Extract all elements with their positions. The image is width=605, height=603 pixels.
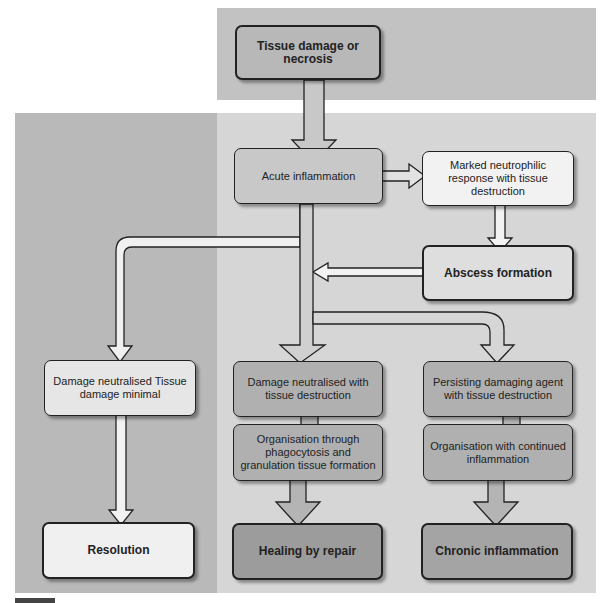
node-damage-destruction: Damage neutralised with tissue destructi…	[233, 361, 383, 417]
node-healing-by-repair: Healing by repair	[232, 523, 383, 580]
node-organisation-continued: Organisation with continued inflammation	[423, 424, 573, 481]
arrow-acute-to-destruction	[280, 204, 325, 363]
arrow-minimal-to-resolution	[109, 415, 133, 525]
arrow-acute-to-minimal	[108, 204, 300, 362]
node-chronic-inflammation: Chronic inflammation	[421, 523, 573, 580]
arrow-acute-to-neutrophilic	[382, 164, 425, 188]
arrow-abscess-to-acute	[313, 263, 423, 281]
node-resolution: Resolution	[42, 522, 195, 579]
arrow-continued-to-chronic	[474, 480, 518, 526]
node-acute-inflammation: Acute inflammation	[234, 148, 383, 204]
node-tissue-damage: Tissue damage or necrosis	[235, 25, 381, 80]
node-persisting-agent: Persisting damaging agent with tissue de…	[423, 361, 573, 417]
node-organisation-phagocytosis: Organisation through phagocytosis and gr…	[233, 424, 383, 481]
arrow-organisation-to-healing	[276, 480, 320, 526]
node-abscess-formation: Abscess formation	[422, 245, 574, 301]
flow-arrows	[0, 0, 605, 603]
arrow-acute-to-persisting	[313, 312, 514, 363]
node-damage-minimal: Damage neutralised Tissue damage minimal	[44, 360, 196, 416]
node-neutrophilic-response: Marked neutrophilic response with tissue…	[422, 151, 574, 206]
